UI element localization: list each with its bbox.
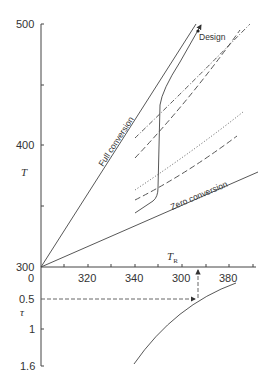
full-conversion-label: Full conversion <box>96 114 136 168</box>
x-axis <box>41 264 256 267</box>
y-tick-400: 400 <box>16 139 34 151</box>
zero-conversion-label: Zero conversion <box>169 179 229 212</box>
tau-axis-label: τ <box>20 306 25 318</box>
tau-curve <box>134 283 236 364</box>
upper-dashdot-curve <box>135 24 250 138</box>
lower-dotted-curve <box>135 112 243 190</box>
tau-tick-05: 0.5 <box>19 293 34 305</box>
x-tick-0: 0 <box>28 272 34 284</box>
y-axis <box>41 24 44 267</box>
x-tick-380: 380 <box>219 272 237 284</box>
y-tick-500: 500 <box>16 18 34 30</box>
y-axis-label: T <box>21 166 28 178</box>
tau-tick-1: 1 <box>29 323 35 335</box>
x-axis-label: TR <box>167 250 178 265</box>
chart: 500 400 T 300 0 320 340 300 380 TR 0.5 τ… <box>0 0 271 388</box>
x-tick-340: 340 <box>125 272 143 284</box>
design-trajectory <box>135 25 201 213</box>
tau-tick-16: 1.6 <box>20 360 35 372</box>
tau-axis <box>41 267 44 366</box>
x-tick-320: 320 <box>78 272 96 284</box>
x-tick-360: 300 <box>172 272 190 284</box>
design-label: Design <box>199 32 226 42</box>
